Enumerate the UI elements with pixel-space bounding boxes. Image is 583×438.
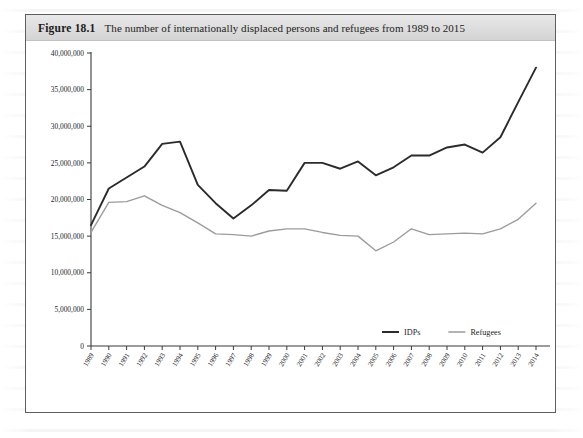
x-axis-tick-label: 1997 xyxy=(224,351,239,368)
x-axis-tick-label: 2009 xyxy=(438,351,453,368)
x-axis-tick-label: 2003 xyxy=(331,351,346,368)
chart-plot-area: 05,000,00010,000,00015,000,00020,000,000… xyxy=(26,41,555,412)
figure-number-label: Figure 18.1 xyxy=(38,22,96,34)
y-axis-tick-label: 30,000,000 xyxy=(51,122,85,131)
figure-title-text: The number of internationally displaced … xyxy=(105,22,465,34)
x-axis-tick-label: 2008 xyxy=(420,351,435,368)
x-axis-tick-label: 2002 xyxy=(313,351,328,368)
x-axis-tick-label: 2013 xyxy=(509,351,524,368)
x-axis-tick-label: 1989 xyxy=(82,351,97,368)
x-axis-tick-label: 1996 xyxy=(206,351,221,368)
x-axis: 1989199019911992199319941995199619971998… xyxy=(82,346,550,368)
y-axis-tick-label: 15,000,000 xyxy=(51,232,85,241)
x-axis-tick-label: 2007 xyxy=(402,351,417,368)
y-axis-tick-label: 35,000,000 xyxy=(51,85,85,94)
x-axis-tick-label: 2000 xyxy=(277,351,292,368)
figure-caption-bar: Figure 18.1 The number of internationall… xyxy=(26,15,555,41)
x-axis-tick-label: 1992 xyxy=(135,351,150,368)
y-axis-tick-label: 0 xyxy=(80,342,84,351)
y-axis-tick-label: 40,000,000 xyxy=(51,49,85,58)
x-axis-tick-label: 2006 xyxy=(384,351,399,368)
legend-label-refugees: Refugees xyxy=(470,328,500,337)
x-axis-tick-label: 1995 xyxy=(188,351,203,368)
x-axis-tick-label: 1993 xyxy=(153,351,168,368)
chart-legend: IDPsRefugees xyxy=(382,328,501,337)
x-axis-tick-label: 1991 xyxy=(117,351,132,368)
y-axis: 05,000,00010,000,00015,000,00020,000,000… xyxy=(51,49,91,351)
x-axis-tick-label: 1994 xyxy=(171,351,186,368)
y-axis-tick-label: 20,000,000 xyxy=(51,195,85,204)
y-axis-tick-label: 10,000,000 xyxy=(51,268,85,277)
x-axis-tick-label: 1999 xyxy=(260,351,275,368)
x-axis-tick-label: 2001 xyxy=(295,351,310,368)
series-line-refugees xyxy=(91,196,536,251)
figure-container: Figure 18.1 The number of internationall… xyxy=(25,14,556,413)
x-axis-tick-label: 1990 xyxy=(99,351,114,368)
x-axis-tick-label: 2005 xyxy=(366,351,381,368)
y-axis-tick-label: 5,000,000 xyxy=(54,305,84,314)
line-chart: 05,000,00010,000,00015,000,00020,000,000… xyxy=(26,41,555,412)
x-axis-tick-label: 2010 xyxy=(455,351,470,368)
data-series-group xyxy=(91,68,536,251)
x-axis-tick-label: 2004 xyxy=(349,351,364,368)
legend-label-idps: IDPs xyxy=(404,328,420,337)
x-axis-tick-label: 2011 xyxy=(473,351,487,367)
series-line-idps xyxy=(91,68,536,225)
x-axis-tick-label: 1998 xyxy=(242,351,257,368)
x-axis-tick-label: 2012 xyxy=(491,351,506,368)
y-axis-tick-label: 25,000,000 xyxy=(51,159,85,168)
x-axis-tick-label: 2014 xyxy=(527,351,542,368)
